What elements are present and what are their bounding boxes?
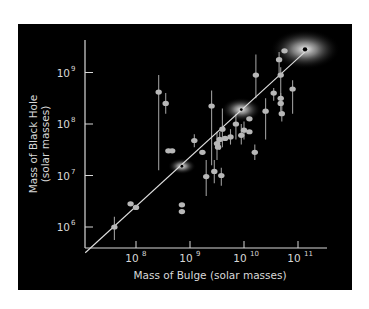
x-axis-label: Mass of Bulge (solar masses) bbox=[133, 269, 286, 281]
data-point bbox=[203, 174, 209, 179]
y-tick-exponent: 6 bbox=[71, 219, 76, 227]
y-tick-label: 10 bbox=[57, 170, 70, 182]
error-bars bbox=[114, 52, 292, 240]
data-point bbox=[227, 134, 233, 139]
data-point bbox=[281, 48, 287, 53]
data-point bbox=[163, 101, 169, 106]
y-tick-label: 10 bbox=[57, 67, 70, 79]
data-point bbox=[218, 173, 224, 178]
data-point bbox=[233, 121, 239, 126]
axes bbox=[85, 40, 327, 248]
y-axis-label: Mass of Black Hole (solar masses) bbox=[27, 95, 51, 194]
data-point bbox=[289, 86, 295, 91]
data-point bbox=[271, 91, 277, 96]
data-point bbox=[279, 111, 285, 116]
data-point bbox=[219, 127, 225, 132]
data-point bbox=[191, 138, 197, 143]
data-point bbox=[253, 72, 259, 77]
data-point bbox=[278, 101, 284, 106]
data-point bbox=[278, 96, 284, 101]
data-point bbox=[169, 148, 175, 153]
data-point bbox=[217, 137, 223, 142]
x-tick-exponent: 9 bbox=[196, 250, 200, 258]
data-point bbox=[179, 209, 185, 214]
y-tick-exponent: 7 bbox=[71, 168, 75, 176]
data-point bbox=[111, 224, 117, 229]
data-point bbox=[238, 133, 244, 138]
x-tick-label: 10 bbox=[125, 252, 138, 264]
galaxy-core bbox=[303, 47, 307, 51]
y-tick-label: 10 bbox=[57, 221, 70, 233]
x-tick-exponent: 10 bbox=[250, 250, 259, 258]
data-point bbox=[246, 116, 252, 121]
x-tick-label: 10 bbox=[287, 252, 300, 264]
data-point bbox=[155, 89, 161, 94]
svg-text:(solar masses): (solar masses) bbox=[39, 106, 51, 183]
x-tick-exponent: 11 bbox=[304, 250, 313, 258]
data-points bbox=[111, 48, 296, 229]
galaxy-core bbox=[240, 108, 243, 111]
x-ticks: 10810910101011 bbox=[125, 241, 313, 264]
data-point bbox=[133, 205, 139, 210]
data-point bbox=[179, 202, 185, 207]
y-ticks: 106107108109 bbox=[57, 65, 93, 234]
data-point bbox=[215, 145, 221, 150]
data-point bbox=[208, 103, 214, 108]
y-tick-exponent: 8 bbox=[71, 116, 75, 124]
data-point bbox=[252, 150, 258, 155]
data-point bbox=[276, 57, 282, 62]
y-tick-exponent: 9 bbox=[71, 65, 75, 73]
svg-text:Mass of Black Hole: Mass of Black Hole bbox=[27, 95, 39, 194]
data-point bbox=[211, 169, 217, 174]
data-point bbox=[199, 150, 205, 155]
scatter-plot: 10810910101011 106107108109 Mass of Bulg… bbox=[0, 0, 369, 309]
x-tick-label: 10 bbox=[179, 252, 192, 264]
data-point bbox=[246, 129, 252, 134]
fit-line bbox=[85, 51, 306, 253]
x-tick-label: 10 bbox=[233, 252, 246, 264]
x-tick-exponent: 8 bbox=[142, 250, 146, 258]
y-tick-label: 10 bbox=[57, 118, 70, 130]
galaxy-core bbox=[181, 165, 184, 168]
data-point bbox=[127, 201, 133, 206]
data-point bbox=[278, 72, 284, 77]
data-point bbox=[262, 109, 268, 114]
